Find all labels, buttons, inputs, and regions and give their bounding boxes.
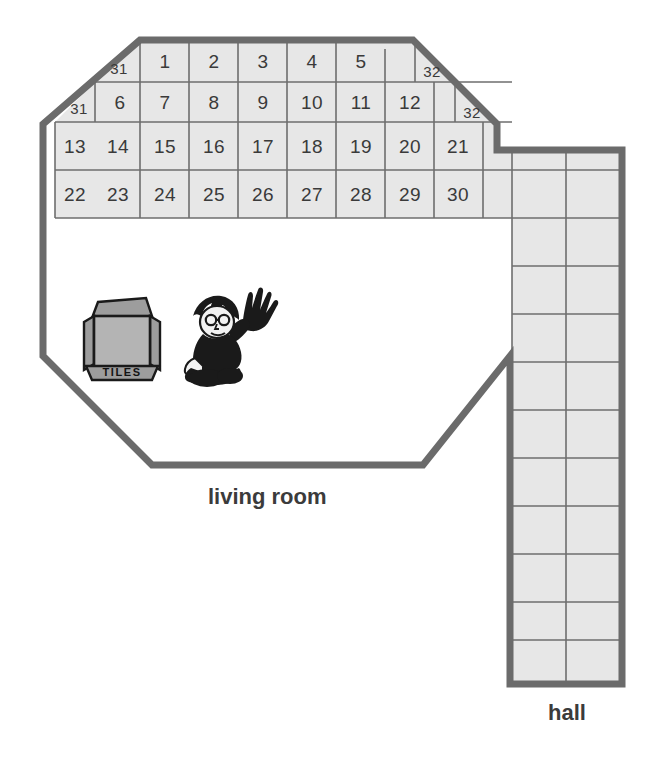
floor-plan-svg: 31 1 2 3 4 5 32 31 6 7 8 9 10 11 12 32 1… — [0, 0, 655, 766]
tile-label: 11 — [351, 92, 372, 113]
tile-label: 9 — [257, 92, 268, 113]
tile-label: 29 — [399, 184, 421, 205]
tile-label: 31 — [70, 100, 88, 117]
tiles-box: TILES — [84, 298, 160, 380]
tile-label: 19 — [350, 136, 372, 157]
tile-label: 2 — [208, 51, 219, 72]
tile-label: 12 — [399, 92, 421, 113]
tile-label: 26 — [252, 184, 274, 205]
tile-label: 23 — [107, 184, 129, 205]
tile-label: 7 — [159, 92, 170, 113]
tile-label: 3 — [257, 51, 268, 72]
tile-label: 32 — [423, 63, 441, 80]
tile-label: 5 — [355, 51, 366, 72]
tile-label: 22 — [64, 184, 86, 205]
tile-label: 24 — [154, 184, 176, 205]
tile-label: 4 — [306, 51, 317, 72]
tile-label: 27 — [301, 184, 323, 205]
tile-label: 16 — [203, 136, 225, 157]
person-kneeling-icon — [185, 288, 278, 387]
tile-label: 25 — [203, 184, 225, 205]
tile-label: 18 — [301, 136, 323, 157]
tile-label: 14 — [107, 136, 129, 157]
hall-label: hall — [548, 700, 586, 726]
tile-label: 32 — [463, 104, 481, 121]
tile-label: 21 — [447, 136, 469, 157]
floor-plan-figure: 31 1 2 3 4 5 32 31 6 7 8 9 10 11 12 32 1… — [0, 0, 655, 766]
tile-label: 28 — [350, 184, 372, 205]
living-room-label: living room — [208, 484, 327, 510]
tile-label: 20 — [399, 136, 421, 157]
tiles-box-label: TILES — [102, 366, 141, 378]
tile-label: 17 — [252, 136, 274, 157]
tile-label: 15 — [154, 136, 176, 157]
tile-label: 13 — [64, 136, 86, 157]
tile-label: 1 — [159, 51, 170, 72]
tile-label: 8 — [208, 92, 219, 113]
tile-label: 10 — [301, 92, 323, 113]
tile-label: 30 — [447, 184, 469, 205]
tile-label: 6 — [114, 92, 125, 113]
tile-label: 31 — [110, 60, 128, 77]
